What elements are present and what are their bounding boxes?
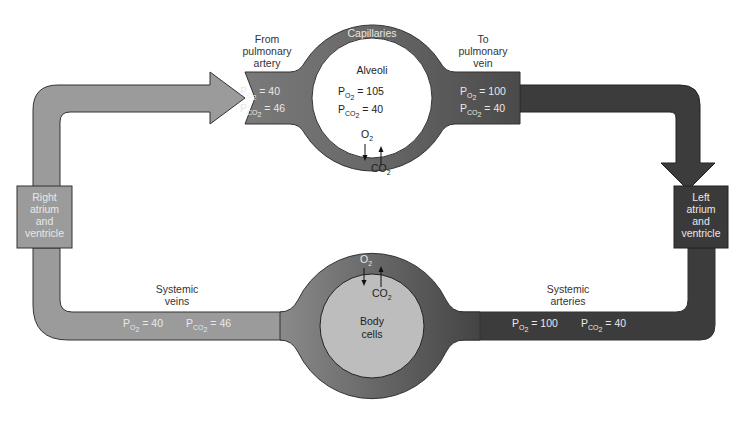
to-pulmonary-vein-label: To pulmonary vein <box>458 33 508 69</box>
svg-text:arteries: arteries <box>550 295 585 307</box>
svg-text:artery: artery <box>254 57 282 69</box>
right-heart-box: Right atrium and ventricle <box>17 186 72 248</box>
svg-text:cells: cells <box>361 328 382 340</box>
svg-text:Alveoli: Alveoli <box>357 64 388 76</box>
left-heart-box: Left atrium and ventricle <box>674 186 728 248</box>
capillaries-label: Capillaries <box>347 27 396 39</box>
systemic-arteries-label: Systemic arteries <box>547 283 590 307</box>
pulmonary-vein-pipe <box>509 84 715 190</box>
svg-text:pulmonary: pulmonary <box>242 45 292 57</box>
svg-text:To: To <box>477 33 488 45</box>
svg-text:Systemic: Systemic <box>547 283 590 295</box>
svg-text:Left: Left <box>692 191 710 203</box>
from-artery-values: PO2 = 40 PCO2 = 46 <box>240 85 285 118</box>
svg-text:vein: vein <box>473 57 492 69</box>
svg-text:Right: Right <box>32 191 57 203</box>
svg-text:ventricle: ventricle <box>681 227 720 239</box>
svg-text:Body: Body <box>360 315 385 327</box>
svg-text:Systemic: Systemic <box>156 283 199 295</box>
svg-text:and: and <box>36 215 54 227</box>
systemic-veins-label: Systemic veins <box>156 283 199 307</box>
svg-text:pulmonary: pulmonary <box>458 45 508 57</box>
from-pulmonary-artery-label: From pulmonary artery <box>242 33 292 69</box>
gas-exchange-diagram: Right atrium and ventricle Left atrium a… <box>0 0 740 424</box>
svg-text:and: and <box>692 215 710 227</box>
svg-text:veins: veins <box>165 295 190 307</box>
svg-text:ventricle: ventricle <box>25 227 64 239</box>
svg-text:atrium: atrium <box>686 203 715 215</box>
svg-text:From: From <box>255 33 280 45</box>
svg-text:atrium: atrium <box>30 203 59 215</box>
to-vein-values: PO2 = 100 PCO2 = 40 <box>460 85 506 118</box>
